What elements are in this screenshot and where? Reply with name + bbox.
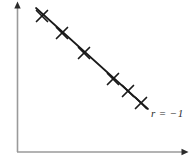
correlation-label: r = −1 [151, 107, 184, 119]
plot-canvas [0, 0, 195, 161]
data-point-marker [57, 28, 68, 39]
data-point-marker [79, 48, 90, 59]
x-axis [17, 149, 189, 155]
x-axis-arrow-icon [182, 149, 189, 155]
data-point-marker [123, 86, 134, 97]
y-axis-arrow-icon [14, 2, 20, 9]
data-point-marker [108, 74, 119, 85]
data-points [37, 11, 147, 109]
scatter-plot-figure: r = −1 [0, 0, 195, 161]
data-point-marker [136, 98, 147, 109]
y-axis [14, 2, 20, 153]
